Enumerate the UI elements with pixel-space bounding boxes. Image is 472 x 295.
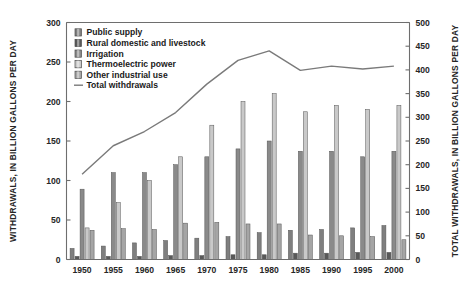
bar-1965-thermoelectric-power [179, 157, 183, 260]
bar-2000-other-industrial-use [402, 240, 406, 260]
right-axis-tick-label-100: 100 [416, 207, 431, 217]
legend-label-rural-domestic-and-livestock: Rural domestic and livestock [87, 38, 206, 48]
bar-1995-public-supply [351, 228, 355, 260]
bar-1960-public-supply [132, 243, 136, 260]
left-axis-tick-label-200: 200 [46, 97, 61, 107]
bar-1980-other-industrial-use [277, 224, 281, 260]
right-axis-tick-label-400: 400 [416, 65, 431, 75]
left-axis-title: WITHDRAWALS, IN BILLION GALLONS PER DAY [8, 40, 18, 242]
bar-1995-rural-domestic-and-livestock [356, 252, 360, 259]
bar-1950-other-industrial-use [90, 230, 94, 259]
x-axis-tick-label-1965: 1965 [166, 265, 185, 275]
bar-1990-rural-domestic-and-livestock [325, 253, 329, 259]
bar-1985-thermoelectric-power [303, 112, 307, 260]
legend-swatch-highlight [77, 29, 79, 36]
bar-1975-irrigation [236, 149, 240, 260]
bar-1990-public-supply [320, 229, 324, 259]
x-axis-tick-label-2000: 2000 [384, 265, 403, 275]
bar-1970-rural-domestic-and-livestock [200, 256, 204, 260]
bar-1990-thermoelectric-power [335, 105, 339, 259]
bar-1965-public-supply [164, 241, 168, 260]
right-axis-tick-label-200: 200 [416, 160, 431, 170]
bar-1990-irrigation [330, 151, 334, 259]
legend-label-total-withdrawals: Total withdrawals [87, 80, 159, 90]
right-axis-tick-label-0: 0 [416, 255, 421, 265]
bar-1970-thermoelectric-power [210, 125, 214, 259]
bar-1980-public-supply [257, 233, 261, 260]
bar-1985-rural-domestic-and-livestock [293, 253, 297, 259]
bar-1995-other-industrial-use [371, 237, 375, 260]
bar-1965-rural-domestic-and-livestock [169, 256, 173, 260]
right-axis-tick-label-300: 300 [416, 112, 431, 122]
x-axis-tick-label-1950: 1950 [73, 265, 92, 275]
left-axis-tick-label-100: 100 [46, 176, 61, 186]
bar-1950-thermoelectric-power [85, 228, 89, 260]
bar-1950-irrigation [80, 189, 84, 259]
right-axis-tick-label-450: 450 [416, 41, 431, 51]
legend-swatch-highlight [77, 71, 79, 78]
right-axis-tick-label-500: 500 [416, 18, 431, 28]
bar-1960-irrigation [142, 173, 146, 260]
bar-1960-other-industrial-use [152, 229, 156, 259]
bar-1955-public-supply [101, 246, 105, 259]
bar-1955-other-industrial-use [121, 229, 125, 260]
right-axis-tick-label-50: 50 [416, 231, 426, 241]
x-axis-tick-label-1975: 1975 [228, 265, 247, 275]
right-axis-tick-label-350: 350 [416, 89, 431, 99]
water-withdrawals-bar-chart: 050100150200250300WITHDRAWALS, IN BILLIO… [0, 0, 472, 295]
right-axis-title: TOTAL WITHDRAWALS, IN BILLION GALLONS PE… [450, 25, 460, 258]
bar-1955-irrigation [111, 173, 115, 260]
bar-1955-thermoelectric-power [116, 203, 120, 260]
right-axis-tick-label-150: 150 [416, 183, 431, 193]
bar-1995-irrigation [361, 157, 365, 260]
right-axis-tick-label-250: 250 [416, 136, 431, 146]
bar-1970-other-industrial-use [215, 222, 219, 259]
bar-1970-public-supply [195, 238, 199, 259]
legend-label-thermoelectric-power: Thermoelectric power [87, 59, 177, 69]
x-axis-tick-label-1995: 1995 [353, 265, 372, 275]
x-axis-tick-label-1970: 1970 [197, 265, 216, 275]
x-axis-tick-label-1985: 1985 [291, 265, 310, 275]
chart-figure: 050100150200250300WITHDRAWALS, IN BILLIO… [0, 0, 472, 295]
x-axis-tick-label-1980: 1980 [260, 265, 279, 275]
bar-2000-thermoelectric-power [397, 105, 401, 259]
x-axis-tick-label-1960: 1960 [135, 265, 154, 275]
left-axis-tick-label-50: 50 [51, 215, 61, 225]
legend-label-public-supply: Public supply [87, 27, 143, 37]
legend-label-irrigation: Irrigation [87, 49, 124, 59]
x-axis-tick-label-1990: 1990 [322, 265, 341, 275]
left-axis-tick-label-0: 0 [56, 255, 61, 265]
legend-label-other-industrial-use: Other industrial use [87, 70, 168, 80]
bar-1965-irrigation [174, 165, 178, 260]
bar-1980-rural-domestic-and-livestock [262, 255, 266, 260]
bar-2000-rural-domestic-and-livestock [387, 252, 391, 259]
bar-1980-irrigation [267, 141, 271, 260]
bar-1975-other-industrial-use [246, 224, 250, 260]
bar-1985-irrigation [298, 151, 302, 259]
left-axis-tick-label-150: 150 [46, 136, 61, 146]
bar-1975-thermoelectric-power [241, 102, 245, 260]
bar-1960-thermoelectric-power [147, 181, 151, 260]
bar-1985-other-industrial-use [308, 235, 312, 259]
bar-1965-other-industrial-use [184, 223, 188, 259]
legend-swatch-highlight [77, 50, 79, 57]
bar-1990-other-industrial-use [340, 236, 344, 260]
left-axis-tick-label-250: 250 [46, 57, 61, 67]
bar-1985-public-supply [288, 230, 292, 259]
bar-2000-public-supply [382, 226, 386, 260]
legend-swatch-highlight [77, 61, 79, 68]
bar-1950-public-supply [70, 248, 74, 259]
legend-swatch-highlight [77, 39, 79, 46]
bar-1975-public-supply [226, 237, 230, 260]
bar-1980-thermoelectric-power [272, 94, 276, 260]
bar-1995-thermoelectric-power [366, 109, 370, 259]
bar-1970-irrigation [205, 157, 209, 260]
x-axis-tick-label-1955: 1955 [104, 265, 123, 275]
bar-2000-irrigation [392, 151, 396, 259]
bar-1975-rural-domestic-and-livestock [231, 255, 235, 260]
left-axis-tick-label-300: 300 [46, 18, 61, 28]
